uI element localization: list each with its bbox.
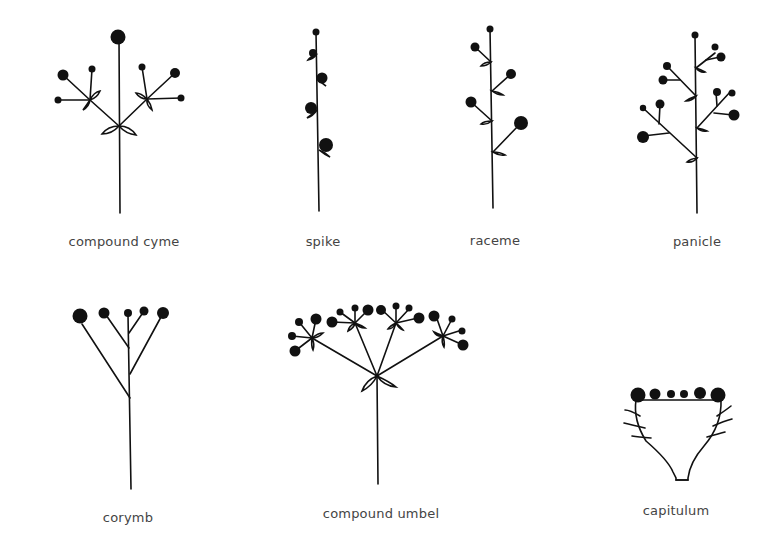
corymb-figure bbox=[82, 314, 161, 489]
capitulum-label: capitulum bbox=[643, 503, 710, 518]
compound-umbel-figure bbox=[292, 306, 463, 484]
raceme-figure bbox=[471, 29, 521, 208]
capitulum-figure bbox=[624, 400, 732, 480]
spike-label: spike bbox=[306, 234, 341, 249]
corymb-label: corymb bbox=[103, 510, 153, 525]
panicle-label: panicle bbox=[673, 234, 721, 249]
raceme-label: raceme bbox=[470, 233, 520, 248]
compound-cyme-figure bbox=[58, 38, 181, 213]
spike-figure bbox=[307, 32, 330, 211]
compound-cyme-label: compound cyme bbox=[69, 234, 180, 249]
compound-umbel-label: compound umbel bbox=[323, 506, 439, 521]
panicle-figure bbox=[643, 35, 733, 213]
inflorescence-diagram bbox=[0, 0, 780, 547]
